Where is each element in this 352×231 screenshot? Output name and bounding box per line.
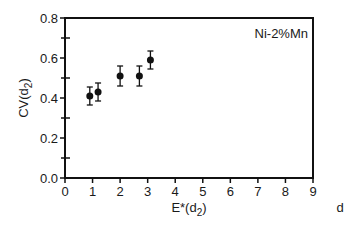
marker-circle (95, 89, 102, 96)
y-axis-label: CV(d2) (16, 78, 34, 118)
x-tick-label: 4 (172, 184, 179, 199)
x-tick-label: 3 (144, 184, 151, 199)
trailing-label: d (336, 200, 343, 215)
x-tick-label: 9 (309, 184, 316, 199)
data-points (86, 51, 154, 105)
chart: 0.00.20.40.60.8 0123456789 Ni-2%Mn E*(d2… (0, 0, 352, 231)
data-point (95, 83, 102, 101)
y-tick-label: 0.8 (40, 11, 58, 26)
data-point (117, 66, 124, 86)
x-tick-label: 0 (61, 184, 68, 199)
data-point (136, 66, 143, 86)
data-point (86, 87, 93, 105)
data-point (147, 51, 154, 69)
plot-border (65, 18, 313, 178)
x-tick-label: 7 (254, 184, 261, 199)
x-tick-label: 1 (89, 184, 96, 199)
marker-circle (117, 73, 124, 80)
y-tick-label: 0.6 (40, 51, 58, 66)
x-axis-label: E*(d2) (171, 200, 206, 218)
marker-circle (136, 73, 143, 80)
x-axis-ticks: 0123456789 (61, 178, 316, 199)
y-tick-label: 0.4 (40, 91, 58, 106)
series-annotation: Ni-2%Mn (255, 26, 308, 41)
x-tick-label: 6 (227, 184, 234, 199)
y-tick-label: 0.0 (40, 171, 58, 186)
x-tick-label: 5 (199, 184, 206, 199)
marker-circle (147, 57, 154, 64)
x-tick-label: 8 (282, 184, 289, 199)
y-tick-label: 0.2 (40, 131, 58, 146)
plot-frame (65, 18, 313, 178)
x-tick-label: 2 (116, 184, 123, 199)
marker-circle (86, 93, 93, 100)
